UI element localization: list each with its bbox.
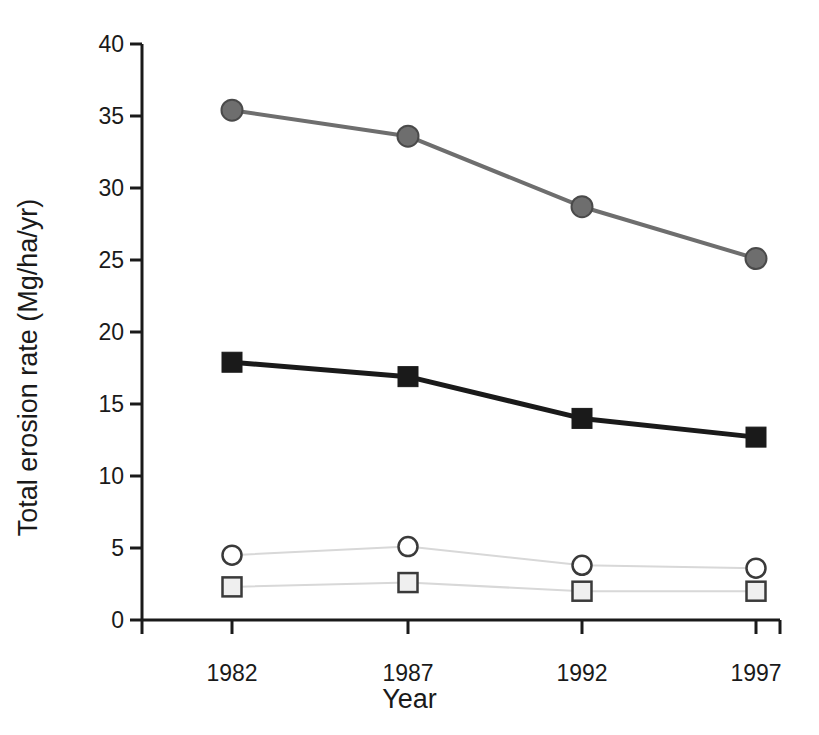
series-gray-filled-circle-series bbox=[222, 100, 767, 269]
data-point-circle-open bbox=[747, 559, 766, 578]
series-open-square-series bbox=[223, 573, 766, 601]
data-point-circle bbox=[572, 196, 593, 217]
data-point-square bbox=[746, 427, 766, 447]
data-point-circle-open bbox=[573, 556, 592, 575]
data-point-square-open bbox=[223, 577, 242, 596]
series-black-filled-square-series bbox=[222, 352, 766, 447]
series-line bbox=[232, 583, 756, 592]
series-line bbox=[232, 362, 756, 437]
data-point-square-open bbox=[399, 573, 418, 592]
data-point-circle bbox=[398, 126, 419, 147]
data-point-square bbox=[222, 352, 242, 372]
data-point-square bbox=[572, 408, 592, 428]
series-line bbox=[232, 547, 756, 569]
data-point-circle bbox=[746, 248, 767, 269]
series-open-circle-series bbox=[223, 537, 766, 578]
data-point-circle-open bbox=[399, 537, 418, 556]
data-point-circle bbox=[222, 100, 243, 121]
data-point-circle-open bbox=[223, 546, 242, 565]
x-axis-title: Year bbox=[0, 684, 819, 715]
data-point-square-open bbox=[573, 582, 592, 601]
plot-area bbox=[0, 0, 819, 735]
chart-container: Total erosion rate (Mg/ha/yr) 0510152025… bbox=[0, 0, 819, 735]
series-line bbox=[232, 110, 756, 258]
data-point-square-open bbox=[747, 582, 766, 601]
data-point-square bbox=[398, 367, 418, 387]
